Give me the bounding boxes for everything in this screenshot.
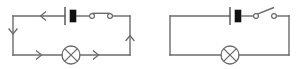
battery-left <box>65 7 92 25</box>
lamp-right <box>221 46 239 64</box>
switch-blade-icon <box>256 8 274 15</box>
battery-right <box>230 7 256 25</box>
switch-right-open[interactable] <box>254 8 277 19</box>
switch-terminal-right-icon <box>108 14 113 19</box>
switch-terminal-left-icon <box>90 14 95 19</box>
switch-terminal-left-icon <box>254 14 259 19</box>
cell-short-plate-icon <box>70 10 76 22</box>
switch-terminal-right-icon <box>272 14 277 19</box>
switch-left-closed[interactable] <box>90 13 113 18</box>
cell-short-plate-icon <box>235 10 241 22</box>
circuit-left <box>9 7 135 64</box>
circuit-figure <box>0 0 303 69</box>
lamp-left <box>62 46 80 64</box>
circuit-diagram-canvas <box>0 0 303 69</box>
circuit-right <box>170 7 289 64</box>
